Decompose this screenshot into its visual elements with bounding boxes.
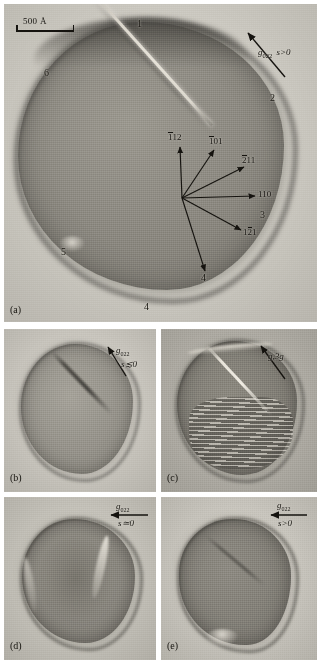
panel-b-micrograph: g022 s≲0 (b) [4, 329, 156, 492]
facet-number-6: 6 [44, 67, 49, 78]
g-condition-label-d: s≃0 [118, 519, 134, 528]
panel-a-micrograph: 500 Å g022 s>0 1 [4, 4, 317, 322]
panel-caption-a: (a) [10, 304, 21, 315]
tem-micrograph-figure: 500 Å g022 s>0 1 [0, 0, 321, 665]
facet-number-2: 2 [270, 92, 275, 103]
panel-d-micrograph: g022 s≃0 (d) [4, 497, 156, 660]
panel-caption-e: (e) [167, 640, 178, 651]
panel-caption-d: (d) [10, 640, 22, 651]
g-condition-label-b: s≲0 [121, 360, 137, 369]
direction-label-110: 110 [258, 190, 271, 199]
direction-line-110 [182, 196, 255, 198]
direction-label-112: 111212 [168, 133, 182, 142]
panel-c-micrograph: g,3g (c) [161, 329, 317, 492]
direction-label-211: 211 [242, 156, 255, 165]
g-vector-arrow-c [161, 329, 317, 492]
panel-e-micrograph: g022 s>0 (e) [161, 497, 317, 660]
facet-number-1: 1 [137, 18, 142, 29]
facet-number-3: 3 [260, 209, 265, 220]
direction-label-121: 121 [243, 228, 257, 237]
g-condition-label-e: s>0 [278, 519, 292, 528]
direction-line-112 [180, 147, 182, 198]
direction-line-211 [182, 167, 244, 198]
panel-caption-c: (c) [167, 472, 178, 483]
g-vector-arrow-e [161, 497, 317, 660]
facet-number-4: 4 [144, 301, 149, 312]
facet-number-5: 5 [61, 246, 66, 257]
g-vector-label-d: g022 [116, 502, 130, 513]
g-vector-label-c: g,3g [268, 352, 284, 361]
g-vector-label-e: g022 [277, 501, 291, 512]
crystallographic-direction-star [4, 4, 317, 322]
direction-line-101 [182, 150, 214, 198]
facet-number-4-inner: 4 [201, 272, 206, 283]
g-vector-label-b: g022 [116, 346, 130, 357]
panel-caption-b: (b) [10, 472, 22, 483]
direction-label-101: 101 [209, 137, 223, 146]
g-vector-arrow-b [4, 329, 156, 492]
